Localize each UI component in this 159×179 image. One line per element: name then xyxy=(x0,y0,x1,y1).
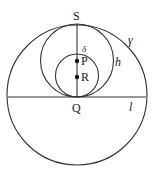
label-h: h xyxy=(115,55,121,69)
diagram-canvas: S Q P R γ h δ l xyxy=(0,0,159,179)
label-s: S xyxy=(73,9,80,23)
label-l: l xyxy=(129,100,133,114)
label-p: P xyxy=(81,54,88,68)
label-r: R xyxy=(81,70,89,84)
label-gamma: γ xyxy=(128,33,133,47)
geometry-figure: S Q P R γ h δ l xyxy=(0,0,159,179)
label-q: Q xyxy=(72,101,81,115)
label-delta: δ xyxy=(82,44,87,54)
point-r-dot xyxy=(75,75,79,79)
point-p-dot xyxy=(75,59,79,63)
